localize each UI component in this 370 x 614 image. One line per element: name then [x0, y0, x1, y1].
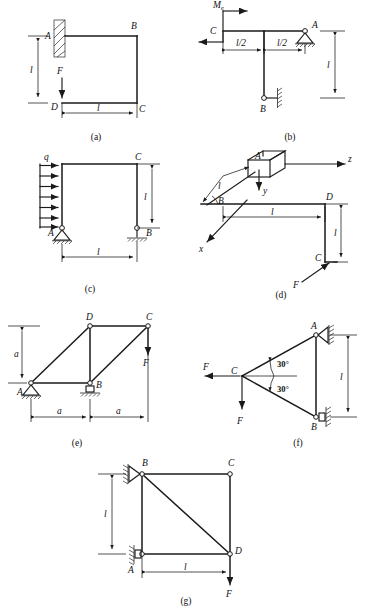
label-d-y: y	[262, 186, 268, 196]
label-f-B: B	[311, 422, 317, 432]
label-b-A: A	[311, 20, 318, 30]
fixed-support-A-icon	[54, 20, 65, 57]
dimension-vertical-b	[320, 31, 345, 98]
label-a-B: B	[131, 21, 137, 31]
label-a-D: D	[50, 102, 58, 112]
label-b-B: B	[260, 104, 266, 114]
label-g-A: A	[127, 565, 134, 575]
axis-x-d	[207, 200, 247, 242]
label-f-angle-lower: 30°	[277, 384, 289, 394]
figure-f: A B C F F 30° 30° l (f)	[185, 304, 370, 456]
label-d-F: F	[292, 280, 299, 290]
figure-sheet: A B C D F l l (a)	[0, 0, 370, 614]
sub-caption-e: (e)	[72, 438, 83, 449]
node-C-g	[228, 472, 233, 477]
label-b-dim-right: l/2	[277, 38, 287, 48]
label-c-dim-v: l	[144, 192, 147, 202]
dimension-vertical-c	[137, 164, 160, 228]
distributed-load-q-c	[40, 164, 58, 228]
label-e-A: A	[16, 387, 23, 397]
label-e-F: F	[142, 358, 149, 368]
dimension-vertical-f	[330, 335, 357, 417]
node-B-e	[88, 381, 93, 386]
label-g-F: F	[225, 589, 232, 599]
member-CA-f	[242, 335, 316, 376]
figure-d: A z y x B D C F l l l (d)	[185, 150, 370, 304]
label-d-C: C	[315, 253, 322, 263]
sub-caption-c: (c)	[85, 284, 96, 295]
label-b-dim-v: l	[327, 60, 330, 70]
member-BC-e	[90, 326, 148, 383]
sub-caption-f: (f)	[293, 438, 303, 449]
label-d-dim-incline: l	[218, 181, 221, 191]
label-d-dim-v: l	[334, 228, 337, 238]
pin-support-A-icon-c	[52, 226, 72, 244]
label-f-C: C	[231, 366, 238, 376]
figure-g: B C A D F l l (g)	[90, 452, 280, 612]
figure-c: q C A B l l (c)	[0, 152, 185, 304]
angle-arc-lower-f	[270, 376, 274, 391]
figure-e: D C A B F a a a (e)	[0, 304, 185, 456]
label-c-C: C	[135, 152, 142, 162]
label-g-D: D	[234, 546, 242, 556]
sub-caption-b: (b)	[284, 132, 295, 143]
label-a-A: A	[44, 31, 51, 41]
label-c-dim-h: l	[97, 247, 100, 257]
label-g-B: B	[142, 458, 148, 468]
roller-support-B-icon-f	[319, 407, 331, 427]
label-f-F-left: F	[202, 362, 209, 372]
label-b-M: Me	[212, 0, 224, 11]
dimension-incline-d	[203, 167, 249, 202]
label-e-dim-left: a	[57, 406, 62, 416]
label-g-C: C	[228, 458, 235, 468]
load-F-d	[302, 263, 329, 282]
label-c-B: B	[146, 228, 152, 238]
label-f-A: A	[310, 321, 317, 331]
label-c-A: A	[47, 228, 54, 238]
label-b-M-sub: e	[221, 4, 224, 11]
label-b-C: C	[210, 26, 217, 36]
label-e-C: C	[146, 312, 153, 322]
label-d-D: D	[325, 192, 333, 202]
label-b-dim-left: l/2	[236, 38, 246, 48]
label-d-z: z	[347, 154, 352, 164]
label-g-dim-v: l	[104, 509, 107, 519]
label-a-C: C	[139, 104, 146, 114]
label-f-F-down: F	[236, 416, 243, 426]
figure-a: A B C D F l l (a)	[0, 0, 185, 150]
label-e-D: D	[85, 312, 93, 322]
node-D-e	[88, 324, 93, 329]
member-BD-g	[142, 474, 230, 554]
label-d-A: A	[254, 151, 261, 161]
label-d-dim-h: l	[271, 207, 274, 217]
angle-arc-upper-f	[270, 361, 274, 376]
roller-support-A-icon-g	[129, 545, 141, 565]
label-a-dim-h: l	[97, 103, 100, 113]
dimension-vertical-e	[8, 326, 40, 383]
label-g-dim-h: l	[184, 562, 187, 572]
figure-b: Me C A B l/2 l/2 l (b)	[185, 0, 370, 150]
label-a-dim-v: l	[30, 65, 33, 75]
label-f-angle-upper: 30°	[277, 359, 289, 369]
pin-support-A-icon-e	[21, 385, 41, 399]
node-A-g	[140, 552, 145, 557]
label-f-dim-v: l	[340, 372, 343, 382]
label-e-dim-right: a	[116, 406, 121, 416]
label-a-F: F	[56, 66, 63, 76]
member-CB-f	[242, 376, 316, 417]
member-AD-e	[31, 326, 90, 383]
sub-caption-g: (g)	[180, 596, 191, 607]
node-B-f	[314, 415, 319, 420]
label-d-B: B	[218, 196, 224, 206]
label-d-x: x	[198, 244, 204, 254]
dimension-vertical-g	[98, 474, 126, 554]
label-c-q: q	[44, 152, 49, 162]
sub-caption-d: (d)	[275, 290, 286, 301]
sub-caption-a: (a)	[91, 132, 102, 143]
label-e-B: B	[96, 380, 102, 390]
incline-bar-d	[207, 172, 255, 205]
label-e-dim-v: a	[14, 349, 19, 359]
